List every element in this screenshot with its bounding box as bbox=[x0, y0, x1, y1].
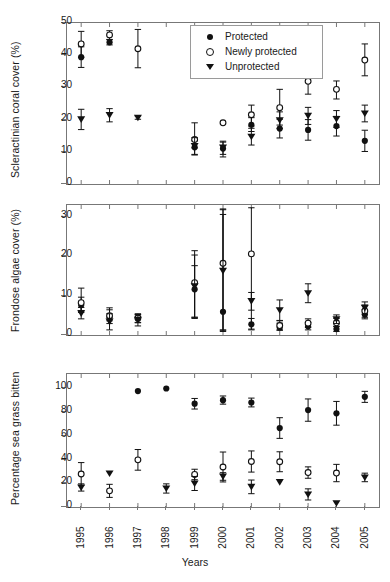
data-point-protected bbox=[305, 399, 311, 421]
data-point-protected bbox=[135, 388, 141, 394]
data-point-unprotected bbox=[247, 128, 255, 145]
y-tick-label: 30 bbox=[32, 209, 72, 220]
legend-item-newly-protected: Newly protected bbox=[199, 44, 297, 59]
data-point-unprotected bbox=[191, 476, 199, 490]
data-point-protected bbox=[277, 418, 283, 439]
data-point-unprotected bbox=[304, 489, 312, 500]
panel-sea-grass bbox=[66, 373, 380, 508]
y-axis-label-algae: Frondose algae cover (%) bbox=[9, 209, 21, 332]
y-tick-label: 40 bbox=[32, 47, 72, 58]
data-point-unprotected bbox=[276, 112, 284, 129]
y-tick-label: 0 bbox=[32, 499, 72, 510]
data-point-newly-protected bbox=[362, 44, 368, 76]
x-tick-mark bbox=[364, 506, 365, 510]
data-point-unprotected bbox=[247, 292, 255, 310]
x-tick-mark bbox=[165, 506, 166, 510]
x-tick-mark bbox=[279, 506, 280, 510]
data-point-protected bbox=[362, 391, 368, 402]
panel-algae-cover bbox=[66, 204, 380, 336]
x-axis-label: Years bbox=[0, 556, 390, 568]
legend-item-protected: Protected bbox=[199, 29, 268, 44]
y-axis-label-coral: Scleractinian coral cover (%) bbox=[9, 41, 21, 178]
legend-label: Unprotected bbox=[221, 61, 279, 72]
x-tick-label-1996: 1996 bbox=[103, 521, 114, 555]
data-point-protected bbox=[220, 396, 226, 404]
data-point-newly-protected bbox=[135, 29, 141, 67]
data-point-protected bbox=[163, 385, 169, 391]
x-tick-label-2003: 2003 bbox=[302, 521, 313, 555]
data-point-protected bbox=[106, 39, 112, 45]
x-tick-mark bbox=[80, 506, 81, 510]
y-axis-label-grass: Percentage sea grass bitten bbox=[9, 372, 21, 505]
data-point-newly-protected bbox=[220, 120, 226, 126]
x-tick-mark bbox=[250, 506, 251, 510]
data-point-newly-protected bbox=[78, 31, 84, 57]
x-tick-mark bbox=[194, 506, 195, 510]
y-tick-label: 60 bbox=[32, 428, 72, 439]
y-tick-label: 20 bbox=[32, 248, 72, 259]
data-point-protected bbox=[333, 326, 339, 332]
data-point-unprotected bbox=[332, 500, 340, 507]
data-point-newly-protected bbox=[135, 450, 141, 471]
data-point-newly-protected bbox=[106, 484, 112, 497]
data-point-unprotected bbox=[77, 109, 85, 129]
legend-label: Newly protected bbox=[221, 46, 297, 57]
y-tick-label: 10 bbox=[32, 144, 72, 155]
x-tick-mark bbox=[109, 506, 110, 510]
plot-area-algae bbox=[67, 205, 379, 335]
data-point-newly-protected bbox=[106, 31, 112, 40]
data-point-unprotected bbox=[106, 109, 114, 122]
chart-legend: Protected Newly protected Unprotected bbox=[190, 25, 323, 79]
data-point-unprotected bbox=[219, 473, 227, 481]
data-point-protected bbox=[333, 401, 339, 425]
legend-label: Protected bbox=[221, 31, 268, 42]
data-point-unprotected bbox=[276, 479, 284, 486]
data-point-unprotected bbox=[304, 284, 312, 303]
open-circle-icon bbox=[199, 48, 221, 56]
x-tick-label-2005: 2005 bbox=[358, 521, 369, 555]
data-point-unprotected bbox=[247, 480, 255, 494]
data-point-unprotected bbox=[361, 105, 369, 122]
figure-three-panel-chart: Scleractinian coral cover (%) Frondose a… bbox=[0, 0, 390, 582]
data-point-unprotected bbox=[361, 473, 369, 482]
y-tick-label: 30 bbox=[32, 79, 72, 90]
data-point-unprotected bbox=[276, 300, 284, 320]
data-point-newly-protected bbox=[333, 81, 339, 99]
x-tick-label-2002: 2002 bbox=[273, 521, 284, 555]
x-tick-label-1997: 1997 bbox=[131, 521, 142, 555]
x-tick-label-2004: 2004 bbox=[330, 521, 341, 555]
y-tick-label: 0 bbox=[32, 176, 72, 187]
y-tick-label: 20 bbox=[32, 112, 72, 123]
x-tick-mark bbox=[307, 506, 308, 510]
data-point-unprotected bbox=[77, 484, 85, 491]
data-point-newly-protected bbox=[277, 452, 283, 472]
x-tick-label-1995: 1995 bbox=[75, 521, 86, 555]
x-tick-label-2000: 2000 bbox=[217, 521, 228, 555]
data-point-protected bbox=[191, 398, 197, 409]
data-point-protected bbox=[248, 398, 254, 407]
triangle-down-icon bbox=[199, 64, 221, 70]
x-tick-label-1998: 1998 bbox=[160, 521, 171, 555]
y-tick-label: 0 bbox=[32, 327, 72, 338]
filled-circle-icon bbox=[199, 34, 221, 40]
data-point-newly-protected bbox=[248, 451, 254, 472]
x-tick-label-2001: 2001 bbox=[245, 521, 256, 555]
data-point-newly-protected bbox=[248, 208, 254, 329]
x-tick-mark bbox=[335, 506, 336, 510]
legend-item-unprotected: Unprotected bbox=[199, 59, 279, 74]
data-point-unprotected bbox=[134, 115, 142, 122]
data-point-newly-protected bbox=[78, 463, 84, 486]
y-tick-label: 10 bbox=[32, 288, 72, 299]
x-tick-mark bbox=[222, 506, 223, 510]
data-point-unprotected bbox=[191, 255, 199, 317]
data-point-protected bbox=[362, 130, 368, 151]
data-point-newly-protected bbox=[305, 467, 311, 478]
y-tick-label: 80 bbox=[32, 404, 72, 415]
plot-area-grass bbox=[67, 374, 379, 507]
y-tick-label: 100 bbox=[32, 380, 72, 391]
data-point-unprotected bbox=[106, 470, 114, 477]
x-tick-label-1999: 1999 bbox=[188, 521, 199, 555]
y-tick-label: 40 bbox=[32, 452, 72, 463]
data-point-unprotected bbox=[162, 484, 170, 493]
data-point-unprotected bbox=[77, 307, 85, 318]
